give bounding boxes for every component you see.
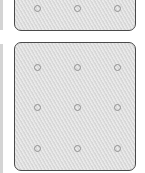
screw-hole-icon xyxy=(114,5,121,12)
screw-hole-icon xyxy=(34,104,41,111)
screw-hole-icon xyxy=(34,5,41,12)
screw-hole-icon xyxy=(74,104,81,111)
screw-hole-icon xyxy=(74,64,81,71)
bottom-panel[interactable] xyxy=(14,42,136,171)
screw-hole-icon xyxy=(74,145,81,152)
top-panel[interactable] xyxy=(14,0,136,31)
screw-hole-icon xyxy=(114,64,121,71)
screw-hole-icon xyxy=(74,5,81,12)
left-edge-divider-bottom xyxy=(0,44,3,173)
screw-hole-icon xyxy=(34,145,41,152)
screw-hole-icon xyxy=(114,104,121,111)
screw-hole-icon xyxy=(34,64,41,71)
left-edge-divider-top xyxy=(0,0,3,30)
screw-hole-icon xyxy=(114,145,121,152)
